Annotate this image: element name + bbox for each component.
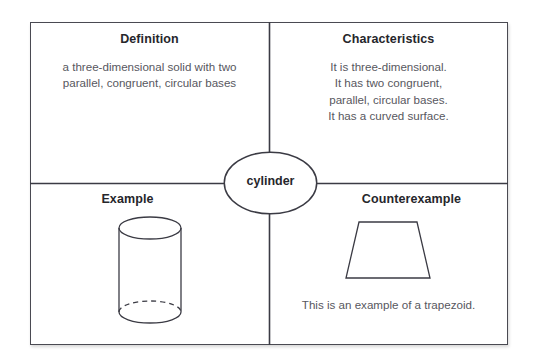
quadrant-counterexample-heading: Counterexample	[292, 183, 531, 206]
quadrant-example-heading: Example	[8, 183, 247, 206]
trapezoid-icon	[333, 216, 443, 284]
center-term-label: cylinder	[223, 174, 318, 188]
quadrant-definition-heading: Definition	[30, 22, 269, 46]
counterexample-caption: This is an example of a trapezoid.	[269, 298, 508, 311]
cylinder-icon	[116, 214, 184, 326]
quadrant-characteristics-heading: Characteristics	[269, 22, 508, 46]
center-term-ellipse: cylinder	[223, 151, 318, 215]
quadrant-characteristics-body: It is three-dimensional. It has two cong…	[269, 46, 508, 125]
quadrant-definition-body: a three-dimensional solid with two paral…	[30, 46, 269, 92]
